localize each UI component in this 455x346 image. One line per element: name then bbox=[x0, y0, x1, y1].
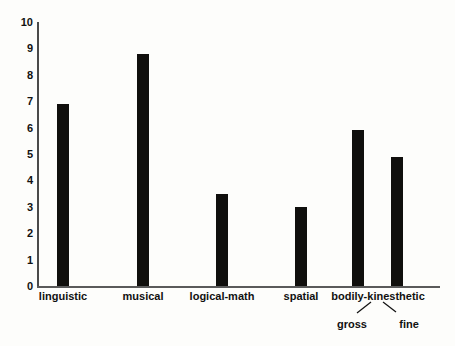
y-tick-label: 1 bbox=[3, 254, 33, 265]
y-tick-label: 9 bbox=[3, 43, 33, 54]
y-tick-label: 3 bbox=[3, 201, 33, 212]
bar bbox=[295, 207, 307, 286]
bar-chart: 012345678910 linguisticmusicallogical-ma… bbox=[0, 0, 455, 346]
bar bbox=[137, 54, 149, 286]
x-axis-sub-labels: grossfine bbox=[0, 318, 455, 338]
category-label: bodily-kinesthetic bbox=[331, 290, 425, 302]
y-tick-label: 4 bbox=[3, 175, 33, 186]
category-label: spatial bbox=[284, 290, 319, 302]
x-axis-line bbox=[37, 286, 440, 288]
y-tick-label: 7 bbox=[3, 96, 33, 107]
category-label: logical-math bbox=[190, 290, 255, 302]
sub-category-label: gross bbox=[337, 318, 367, 330]
y-tick-label: 10 bbox=[3, 17, 33, 28]
bar bbox=[391, 157, 403, 286]
bar bbox=[216, 194, 228, 286]
x-axis-category-labels: linguisticmusicallogical-mathspatialbodi… bbox=[0, 290, 455, 310]
sub-category-label: fine bbox=[399, 318, 419, 330]
category-label: linguistic bbox=[39, 290, 87, 302]
bars-container bbox=[37, 22, 440, 286]
bar bbox=[352, 130, 364, 286]
y-tick-label: 6 bbox=[3, 122, 33, 133]
y-tick-label: 5 bbox=[3, 149, 33, 160]
category-label: musical bbox=[123, 290, 164, 302]
bar bbox=[57, 104, 69, 286]
y-tick-label: 2 bbox=[3, 228, 33, 239]
y-tick-label: 8 bbox=[3, 69, 33, 80]
